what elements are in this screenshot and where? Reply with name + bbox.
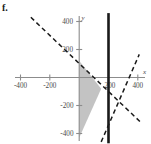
figure-panel: f. -400 -200 200 400 400 200 -200 (0, 0, 151, 144)
y-axis-label: y (81, 14, 86, 22)
y-tick-label-neg200: -200 (60, 102, 74, 110)
x-tick-label-neg400: -400 (14, 82, 28, 90)
graph-canvas: -400 -200 200 400 400 200 -200 -400 x y (0, 0, 151, 144)
shaded-region (79, 61, 101, 138)
ascending-dashed-line (101, 54, 139, 141)
y-tick-label-neg400: -400 (60, 130, 74, 138)
x-tick-label-neg200: -200 (43, 82, 57, 90)
y-tick-label-200: 200 (62, 46, 73, 54)
x-tick-label-400: 400 (132, 82, 143, 90)
x-axis-label: x (142, 68, 147, 76)
y-tick-label-400: 400 (62, 18, 73, 26)
